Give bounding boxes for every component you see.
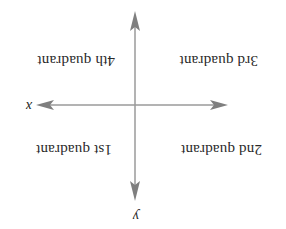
x-axis — [36, 100, 228, 110]
second-quadrant-label: 2nd quadrant — [181, 142, 262, 157]
third-quadrant-label: 3rd quadrant — [179, 53, 258, 68]
coordinate-plane-diagram: x y 1st quadrant 2nd quadrant 3rd quadra… — [0, 0, 286, 229]
y-axis — [130, 11, 140, 201]
axes-graphic — [0, 0, 286, 229]
x-axis-label: x — [26, 99, 32, 113]
first-quadrant-label: 1st quadrant — [36, 142, 112, 157]
y-axis-label: y — [133, 209, 139, 223]
fourth-quadrant-label: 4th quadrant — [37, 53, 115, 68]
